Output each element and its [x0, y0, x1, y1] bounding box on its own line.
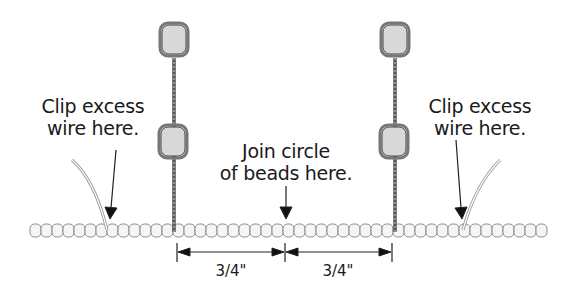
right-clip-line-2: wire here.: [415, 117, 545, 139]
bead-strand: [30, 224, 547, 237]
left-clip-line-2: wire here.: [28, 117, 158, 139]
left-clip-line-1: Clip excess: [28, 95, 158, 117]
join-label: Join circle of beads here.: [216, 140, 356, 184]
right-excess-wire: [463, 160, 500, 230]
left-excess-wire: [72, 160, 107, 230]
right-wire-pillar: [380, 23, 409, 232]
dimension-lines: [177, 243, 392, 262]
left-wire-pillar: [159, 23, 188, 232]
left-clip-label: Clip excess wire here.: [28, 95, 158, 139]
right-clip-label: Clip excess wire here.: [415, 95, 545, 139]
join-line-2: of beads here.: [216, 162, 356, 184]
right-clip-line-1: Clip excess: [415, 95, 545, 117]
right-excess-wire-inner: [463, 160, 500, 230]
join-line-1: Join circle: [216, 140, 356, 162]
left-excess-wire-inner: [72, 160, 107, 230]
right-span-dimension: 3/4": [313, 262, 363, 280]
left-span-dimension: 3/4": [206, 262, 256, 280]
